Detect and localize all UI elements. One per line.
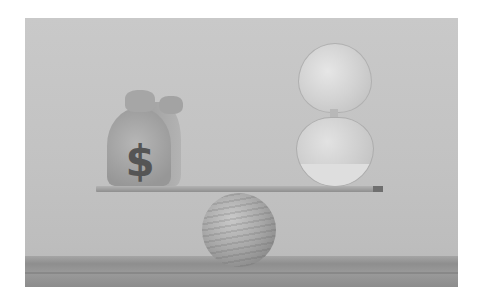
hourglass bbox=[296, 43, 374, 186]
dollar-sign-icon: $ bbox=[119, 138, 161, 186]
plank-end bbox=[373, 186, 383, 192]
hourglass-sand bbox=[297, 164, 373, 186]
hourglass-bottom-bulb bbox=[296, 117, 374, 187]
balance-plank bbox=[96, 186, 383, 192]
money-bag-back-neck bbox=[159, 96, 183, 114]
floor-edge bbox=[25, 272, 458, 274]
money-bag-neck bbox=[125, 90, 155, 112]
photo: $ bbox=[25, 18, 458, 287]
wood-grain bbox=[202, 193, 276, 267]
money-bag: $ bbox=[107, 90, 187, 186]
money-bag-front: $ bbox=[107, 108, 171, 186]
wooden-ball bbox=[202, 193, 276, 267]
hourglass-top-bulb bbox=[298, 43, 372, 113]
